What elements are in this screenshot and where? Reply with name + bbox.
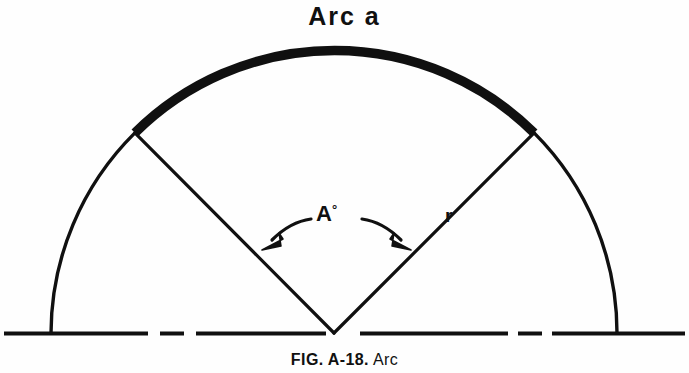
semicircle-left-arc <box>51 133 135 333</box>
angle-letter: A <box>316 201 332 226</box>
semicircle-right-arc <box>534 133 617 333</box>
right-leader-curve <box>362 219 401 240</box>
right-angle-leader-arrow <box>362 219 411 250</box>
arc-figure: Arc a A° r FIG. A-18. Arc <box>0 0 689 373</box>
right-radius-line <box>334 133 534 333</box>
caption-number: FIG. A-18. <box>291 351 369 368</box>
arc-title-label: Arc a <box>0 4 689 29</box>
figure-caption: FIG. A-18. Arc <box>0 352 689 368</box>
highlighted-arc-a <box>135 51 534 133</box>
left-angle-leader-arrow <box>262 219 311 250</box>
central-angle-label: A° <box>316 203 337 225</box>
left-leader-curve <box>272 219 311 240</box>
radius-label: r <box>445 206 452 225</box>
caption-title: Arc <box>373 351 398 368</box>
arc-diagram-canvas <box>0 0 689 373</box>
degree-symbol: ° <box>332 202 337 217</box>
left-radius-line <box>135 133 334 333</box>
